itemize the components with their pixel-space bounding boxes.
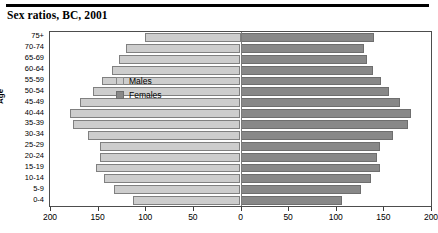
bar-female-20-24 [241,153,377,162]
legend-label-males: Males [129,76,152,86]
y-label-30-34: 30-34 [25,130,44,138]
bar-female-75+ [241,33,374,42]
y-label-70-74: 70-74 [25,43,44,51]
legend-swatch-females-icon [116,91,124,99]
legend-swatch-males-icon [116,77,124,85]
bar-female-60-64 [241,66,373,75]
x-label-2: 100 [138,212,152,222]
bar-female-0-4 [241,196,343,205]
bar-male-40-44 [70,109,240,118]
x-label-3: 50 [188,212,197,222]
x-label-4: 0 [238,212,243,222]
bar-male-15-19 [96,164,241,173]
bar-male-5-9 [114,185,241,194]
bar-female-5-9 [241,185,361,194]
x-axis: 20015010050050100150200 [49,207,432,231]
y-label-50-54: 50-54 [25,87,44,95]
y-label-10-14: 10-14 [25,174,44,182]
y-label-15-19: 15-19 [25,163,44,171]
x-tick-7 [383,207,384,211]
x-label-6: 100 [329,212,343,222]
chart-page: Sex ratios, BC, 2001 Age 75+70-7465-6960… [0,0,438,233]
x-tick-6 [336,207,337,211]
bar-male-60-64 [112,66,241,75]
x-tick-8 [431,207,432,211]
bar-male-50-54 [93,87,241,96]
y-label-25-29: 25-29 [25,141,44,149]
bar-male-75+ [145,33,240,42]
x-tick-2 [145,207,146,211]
y-label-75+: 75+ [31,32,44,40]
top-rule-divider [6,4,429,7]
x-tick-5 [288,207,289,211]
x-tick-4 [241,207,242,211]
x-tick-3 [193,207,194,211]
x-tick-0 [50,207,51,211]
x-label-7: 150 [376,212,390,222]
bar-female-25-29 [241,142,380,151]
x-label-5: 50 [283,212,292,222]
bar-female-10-14 [241,174,371,183]
bar-male-25-29 [100,142,240,151]
y-label-60-64: 60-64 [25,65,44,73]
y-label-0-4: 0-4 [33,196,44,204]
legend-item-males: Males [116,76,162,86]
bar-female-50-54 [241,87,390,96]
bar-male-20-24 [100,153,241,162]
bar-female-55-59 [241,77,381,86]
y-label-35-39: 35-39 [25,119,44,127]
x-label-8: 200 [424,212,438,222]
bar-female-65-69 [241,55,368,64]
bar-female-30-34 [241,131,393,140]
bar-female-35-39 [241,120,409,129]
y-label-45-49: 45-49 [25,98,44,106]
x-tick-1 [98,207,99,211]
x-label-0: 200 [43,212,57,222]
y-label-65-69: 65-69 [25,54,44,62]
x-label-1: 150 [91,212,105,222]
bar-male-0-4 [133,196,241,205]
bar-male-10-14 [104,174,240,183]
legend-label-females: Females [129,90,162,100]
bar-male-35-39 [73,120,241,129]
bar-female-70-74 [241,44,365,53]
chart-legend: Males Females [116,76,162,104]
y-label-40-44: 40-44 [25,109,44,117]
y-label-20-24: 20-24 [25,152,44,160]
center-axis-line [241,32,242,206]
y-label-5-9: 5-9 [33,185,44,193]
bar-male-70-74 [126,44,240,53]
bar-female-40-44 [241,109,411,118]
bar-male-65-69 [119,55,241,64]
chart-plot-area: Males Females [49,31,432,207]
page-title: Sex ratios, BC, 2001 [7,9,108,21]
bar-female-15-19 [241,164,380,173]
y-axis-labels: 75+70-7465-6960-6455-5950-5445-4940-4435… [0,31,47,207]
y-label-55-59: 55-59 [25,76,44,84]
bar-male-30-34 [88,131,240,140]
legend-item-females: Females [116,90,162,100]
bar-female-45-49 [241,98,400,107]
